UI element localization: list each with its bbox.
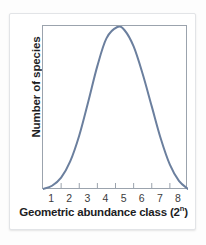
x-tick-label-8: 8 [169,191,187,205]
x-axis-title: Geometric abundance class (2n) [16,206,191,218]
figure-card: Number of species 12345678 Geometric abu… [9,13,196,230]
x-tick-label-7: 7 [151,191,169,205]
x-tick-label-1: 1 [42,191,60,205]
x-tick-label-5: 5 [115,191,133,205]
x-tick-labels: 12345678 [42,191,187,205]
x-tick-label-3: 3 [78,191,96,205]
plot-curve-svg [43,26,188,190]
x-axis-title-close: ) [184,206,188,218]
x-axis-title-main: Geometric abundance class (2 [19,206,180,218]
plot-frame [42,25,187,189]
abundance-curve [43,26,188,189]
x-tick-label-4: 4 [96,191,114,205]
x-tick-marks [61,183,170,189]
x-tick-label-6: 6 [133,191,151,205]
x-tick-label-2: 2 [60,191,78,205]
